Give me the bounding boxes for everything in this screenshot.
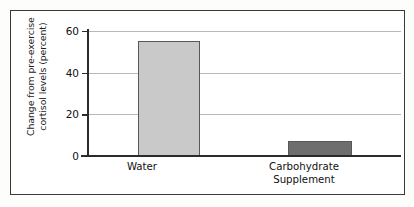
x-tick-label-carbohydrate-supplement: Carbohydrate Supplement	[256, 161, 352, 186]
y-tick-label-20: 20	[53, 108, 79, 120]
y-axis-line	[87, 29, 89, 157]
plot-area	[88, 31, 401, 156]
y-tick-label-60: 60	[53, 25, 79, 37]
gridline-40	[88, 73, 401, 74]
y-tick-label-0: 0	[53, 150, 79, 162]
x-tick-label-water: Water	[108, 161, 176, 174]
y-tick-label-40: 40	[53, 67, 79, 79]
bar-water	[138, 41, 200, 156]
y-axis-title: Change from pre-exercise cortisol levels…	[25, 7, 48, 147]
chart-frame: Change from pre-exercise cortisol levels…	[10, 10, 405, 195]
x-axis-line	[81, 155, 401, 157]
bar-carbohydrate-supplement	[288, 141, 352, 156]
chart-figure: Change from pre-exercise cortisol levels…	[0, 0, 414, 207]
gridline-60	[88, 31, 401, 32]
gridline-20	[88, 114, 401, 115]
y-axis-tick-labels: 0 20 40 60	[47, 31, 79, 156]
